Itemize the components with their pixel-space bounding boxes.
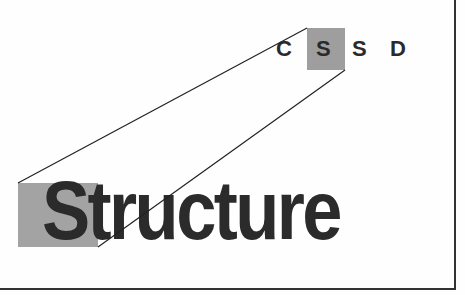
zoom-connector-lines bbox=[0, 0, 465, 295]
diagram-canvas: C S S D Structure bbox=[0, 0, 465, 295]
